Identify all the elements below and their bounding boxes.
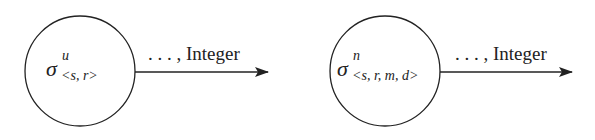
node-1-label: σ u <s, r> [46, 56, 136, 86]
node-2-subscript: <s, r, m, d> [352, 68, 418, 84]
edge-2-label: . . . , Integer [455, 43, 547, 65]
node-1-superscript: u [62, 48, 69, 64]
edge-1-label: . . . , Integer [148, 43, 240, 65]
node-1-subscript: <s, r> [61, 68, 98, 84]
node-2-superscript: n [353, 48, 360, 64]
node-2-sigma: σ [337, 56, 348, 81]
node-2-label: σ n <s, r, m, d> [337, 56, 447, 86]
node-1-sigma: σ [46, 56, 57, 81]
